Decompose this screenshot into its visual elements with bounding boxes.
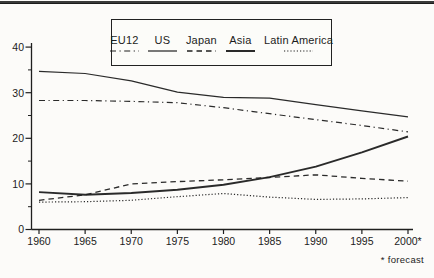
x-tick-label: 1970 — [120, 235, 144, 247]
legend-item-us: US — [148, 34, 177, 54]
x-tick-label: 1980 — [212, 235, 236, 247]
x-tick-label: 1960 — [27, 235, 51, 247]
x-tick-label: 1965 — [73, 235, 97, 247]
figure: 0102030401960196519701975198019851990199… — [0, 0, 434, 278]
legend-item-japan: Japan — [186, 34, 217, 54]
legend-line-sample — [284, 48, 313, 54]
x-tick-label: 2000* — [394, 235, 421, 247]
x-tick-label: 1975 — [166, 235, 190, 247]
y-tick-label: 10 — [12, 178, 24, 190]
forecast-footnote: * forecast — [381, 254, 424, 265]
legend-label: EU12 — [110, 34, 138, 47]
y-tick-label: 0 — [18, 223, 24, 235]
legend-line-sample — [110, 48, 139, 54]
series-line-asia — [39, 137, 408, 195]
legend-line-sample — [187, 48, 216, 54]
legend-line-sample — [148, 48, 177, 54]
x-tick-label: 1995 — [350, 235, 374, 247]
legend-label: Asia — [229, 34, 251, 47]
legend-item-eu12: EU12 — [110, 34, 139, 54]
series-line-eu12 — [39, 101, 408, 132]
legend-label: US — [155, 34, 171, 47]
legend-item-asia: Asia — [226, 34, 255, 54]
x-tick-label: 1990 — [304, 235, 328, 247]
series-line-us — [39, 71, 408, 117]
series-line-japan — [39, 175, 408, 201]
chart-legend: EU12USJapanAsiaLatin America — [111, 19, 332, 66]
legend-line-sample — [226, 48, 255, 54]
legend-label: Latin America — [264, 34, 333, 47]
y-tick-label: 30 — [12, 87, 24, 99]
legend-item-latin-america: Latin America — [264, 34, 333, 54]
y-tick-label: 40 — [12, 41, 24, 53]
legend-label: Japan — [186, 34, 217, 47]
y-tick-label: 20 — [12, 132, 24, 144]
x-tick-label: 1985 — [258, 235, 282, 247]
